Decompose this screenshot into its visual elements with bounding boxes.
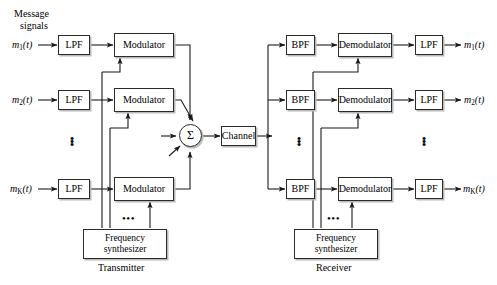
tx-synth-line1: Frequency	[105, 233, 145, 243]
rx-lpf-1[interactable]: LPF	[415, 35, 443, 55]
demodulator-1[interactable]: Demodulator	[338, 33, 392, 57]
message-signals-line2: signals	[20, 20, 48, 31]
modulator-1-label: Modulator	[123, 40, 165, 51]
demodulator-2-label: Demodulator	[339, 95, 392, 106]
modulator-2[interactable]: Modulator	[114, 88, 174, 112]
rx-synth-line2: synthesizer	[315, 244, 358, 254]
rx-bpf-1[interactable]: BPF	[286, 35, 315, 55]
demodulator-1-label: Demodulator	[339, 40, 392, 51]
rx-lpf-3[interactable]: LPF	[415, 179, 443, 199]
modulator-1[interactable]: Modulator	[114, 33, 174, 57]
rx-lpf-2[interactable]: LPF	[415, 90, 443, 110]
rx-frequency-synthesizer[interactable]: Frequency synthesizer	[294, 229, 378, 259]
rx-bpf-2-label: BPF	[292, 95, 310, 106]
rx-lpf-3-label: LPF	[420, 184, 437, 195]
rx-bpf-3[interactable]: BPF	[286, 179, 315, 199]
channel-block[interactable]: Channel	[221, 126, 256, 146]
rx-bpf-2[interactable]: BPF	[286, 90, 315, 110]
input-signal-mK: mK(t)	[10, 183, 32, 195]
tx-lpf-1[interactable]: LPF	[58, 35, 90, 55]
sigma-icon: Σ	[187, 128, 194, 143]
tx-lpf-3[interactable]: LPF	[58, 179, 90, 199]
input-signal-m2: m2(t)	[12, 94, 32, 106]
transmitter-caption: Transmitter	[98, 262, 144, 273]
tx-synth-line2: synthesizer	[104, 244, 147, 254]
summing-junction[interactable]: Σ	[179, 124, 202, 147]
output-signal-mK: mK(t)	[463, 183, 485, 195]
output-signal-m2: m2(t)	[464, 94, 484, 106]
tx-lpf-2[interactable]: LPF	[58, 90, 90, 110]
modulator-3-label: Modulator	[123, 184, 165, 195]
rx-output-ellipsis: • • •	[421, 137, 427, 146]
message-signals-label: Message signals	[14, 8, 49, 32]
output-signal-m1: m1(t)	[464, 39, 484, 51]
demodulator-3-label: Demodulator	[339, 184, 392, 195]
modulator-3[interactable]: Modulator	[114, 177, 174, 201]
receiver-caption: Receiver	[316, 262, 352, 273]
tx-lpf-3-label: LPF	[65, 184, 82, 195]
input-signal-m1: m1(t)	[12, 39, 32, 51]
tx-frequency-synthesizer[interactable]: Frequency synthesizer	[83, 229, 167, 259]
fdm-block-diagram: Message signals m1(t) m2(t) mK(t) LPF LP…	[0, 0, 497, 285]
tx-input-ellipsis: • • •	[69, 137, 75, 146]
rx-synth-ellipsis: •••	[327, 212, 340, 224]
demodulator-2[interactable]: Demodulator	[338, 88, 392, 112]
tx-lpf-2-label: LPF	[65, 95, 82, 106]
tx-synth-ellipsis: •••	[122, 212, 135, 224]
rx-bpf-ellipsis: • • •	[296, 137, 302, 146]
message-signals-line1: Message	[14, 8, 49, 19]
rx-synth-line1: Frequency	[316, 233, 356, 243]
rx-lpf-1-label: LPF	[420, 40, 437, 51]
demodulator-3[interactable]: Demodulator	[338, 177, 392, 201]
modulator-2-label: Modulator	[123, 95, 165, 106]
rx-bpf-1-label: BPF	[292, 40, 310, 51]
rx-lpf-2-label: LPF	[420, 95, 437, 106]
rx-bpf-3-label: BPF	[292, 184, 310, 195]
tx-lpf-1-label: LPF	[65, 40, 82, 51]
channel-label: Channel	[222, 131, 255, 142]
